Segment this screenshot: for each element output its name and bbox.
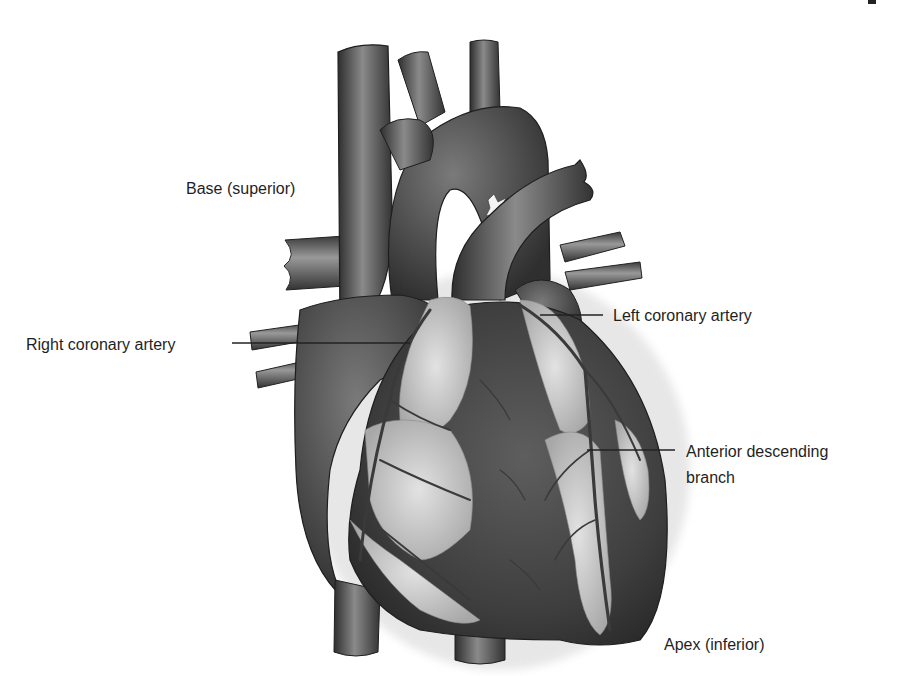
right-pulmonary-artery: [284, 236, 345, 290]
brachiocephalic-artery: [398, 52, 445, 126]
label-left-coronary-artery: Left coronary artery: [613, 305, 752, 326]
heart-diagram: Base (superior) Right coronary artery Le…: [0, 0, 898, 676]
label-anterior-descending: Anterior descending: [686, 441, 828, 462]
pulmonary-veins-left: [560, 232, 642, 290]
left-common-carotid: [470, 40, 500, 118]
label-anterior-descending-branch: branch: [686, 467, 735, 488]
label-apex-inferior: Apex (inferior): [664, 634, 764, 655]
label-base-superior: Base (superior): [186, 178, 295, 199]
label-right-coronary-artery: Right coronary artery: [26, 334, 175, 355]
superior-vena-cava: [338, 45, 392, 330]
